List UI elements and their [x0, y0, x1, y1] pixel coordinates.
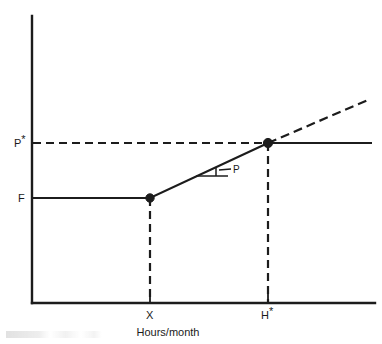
y-label-p-star-superscript: * [21, 133, 26, 145]
figure-container: P P* F X H* Hours/month [0, 0, 382, 344]
x-label-h-star-superscript: * [269, 305, 274, 317]
drop-lines-group [150, 143, 268, 302]
slope-label: P [233, 164, 240, 175]
x-label-h-base: H [261, 309, 269, 321]
y-label-f: F [18, 192, 25, 204]
cost-schedule-group [33, 100, 368, 198]
x-axis-title: Hours/month [137, 326, 200, 338]
x-tick-label-x: X [146, 309, 154, 321]
cost-schedule-dashed-extension [268, 100, 368, 143]
chart-canvas: P P* F X H* Hours/month [0, 0, 382, 344]
axes-group [32, 16, 375, 303]
intersection-point-marker [263, 138, 272, 147]
y-label-p-base: P [14, 137, 21, 149]
x-tick-label-h-star: H* [261, 305, 274, 321]
kink-point-marker [146, 194, 154, 202]
slope-leader-line [219, 169, 231, 170]
caption-artifact [6, 331, 102, 338]
x-axis-ticks-group: X H* [146, 293, 274, 321]
y-label-p-star: P* [14, 133, 26, 149]
y-axis-labels-group: P* F [14, 133, 26, 204]
